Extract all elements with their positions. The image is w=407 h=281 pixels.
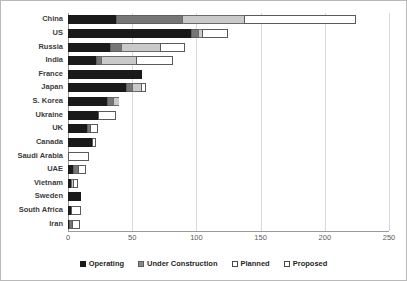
- x-axis-tick-labels: 050100150200250: [68, 233, 389, 245]
- legend-swatch-proposed-icon: [284, 261, 290, 267]
- chart-legend: OperatingUnder ConstructionPlannedPropos…: [1, 259, 406, 268]
- x-axis-line: [68, 231, 389, 232]
- category-label-sweden: Sweden: [35, 190, 63, 201]
- bar-segment-proposed: [72, 220, 80, 229]
- bar-row: UAE: [68, 165, 86, 174]
- legend-label: Planned: [241, 259, 270, 268]
- bar-segment-proposed: [244, 15, 356, 24]
- bar-segment-proposed: [71, 206, 81, 215]
- bar-segment-operating: [68, 97, 107, 106]
- x-tick-150: 150: [254, 233, 267, 242]
- bar-segment-operating: [68, 43, 110, 52]
- category-label-saudi-arabia: Saudi Arabia: [17, 150, 63, 161]
- bar-segment-under-construction: [116, 15, 183, 24]
- x-tick-200: 200: [319, 233, 332, 242]
- bar-row: Vietnam: [68, 179, 78, 188]
- category-label-india: India: [45, 54, 63, 65]
- bar-rows: ChinaUSRussiaIndiaFranceJapanS. KoreaUkr…: [68, 13, 389, 231]
- category-label-russia: Russia: [38, 41, 63, 52]
- bar-segment-proposed: [68, 152, 89, 161]
- bar-segment-planned: [121, 43, 161, 52]
- bar-row: UK: [68, 124, 98, 133]
- bar-row: US: [68, 29, 228, 38]
- legend-swatch-under-construction-icon: [138, 261, 144, 267]
- bar-segment-operating: [68, 83, 126, 92]
- bar-segment-planned: [132, 83, 141, 92]
- bar-segment-operating: [68, 124, 87, 133]
- category-label-japan: Japan: [41, 81, 63, 92]
- bar-segment-proposed: [136, 56, 173, 65]
- bar-segment-proposed: [141, 83, 146, 92]
- legend-swatch-planned-icon: [232, 261, 238, 267]
- bar-segment-operating: [68, 29, 191, 38]
- bar-row: Russia: [68, 43, 185, 52]
- legend-item-under-construction[interactable]: Under Construction: [138, 259, 217, 268]
- bar-segment-proposed: [160, 43, 184, 52]
- category-label-vietnam: Vietnam: [34, 177, 63, 188]
- x-tick-0: 0: [66, 233, 70, 242]
- nuclear-reactor-stacked-bar-chart: ChinaUSRussiaIndiaFranceJapanS. KoreaUkr…: [0, 0, 407, 281]
- bar-segment-planned: [113, 97, 119, 106]
- bar-segment-operating: [68, 70, 142, 79]
- bar-segment-operating: [68, 192, 81, 201]
- bar-row: South Africa: [68, 206, 81, 215]
- bar-segment-proposed: [92, 138, 96, 147]
- bar-row: S. Korea: [68, 97, 119, 106]
- category-label-s-korea: S. Korea: [33, 95, 63, 106]
- category-label-iran: Iran: [49, 218, 63, 229]
- bar-row: Canada: [68, 138, 96, 147]
- category-label-china: China: [42, 13, 63, 24]
- bar-segment-planned: [101, 56, 136, 65]
- bar-row: Iran: [68, 220, 80, 229]
- legend-item-proposed[interactable]: Proposed: [284, 259, 328, 268]
- category-label-uk: UK: [52, 122, 63, 133]
- bar-segment-planned: [182, 15, 244, 24]
- x-tick-250: 250: [383, 233, 396, 242]
- legend-label: Proposed: [293, 259, 328, 268]
- bar-row: China: [68, 15, 356, 24]
- legend-label: Under Construction: [147, 259, 217, 268]
- bar-row: Sweden: [68, 192, 81, 201]
- bar-row: France: [68, 70, 142, 79]
- bar-segment-operating: [68, 111, 98, 120]
- x-tick-50: 50: [128, 233, 136, 242]
- plot-area: ChinaUSRussiaIndiaFranceJapanS. KoreaUkr…: [68, 13, 389, 231]
- legend-label: Operating: [89, 259, 124, 268]
- category-label-ukraine: Ukraine: [35, 109, 63, 120]
- bar-row: India: [68, 56, 173, 65]
- legend-item-planned[interactable]: Planned: [232, 259, 270, 268]
- legend-swatch-operating-icon: [80, 261, 86, 267]
- x-tick-100: 100: [190, 233, 203, 242]
- legend-item-operating[interactable]: Operating: [80, 259, 124, 268]
- bar-segment-operating: [68, 56, 96, 65]
- bar-row: Saudi Arabia: [68, 152, 89, 161]
- bar-segment-proposed: [73, 179, 78, 188]
- bar-row: Japan: [68, 83, 146, 92]
- category-label-uae: UAE: [47, 163, 63, 174]
- bar-segment-proposed: [78, 165, 86, 174]
- bar-segment-proposed: [90, 124, 98, 133]
- bar-segment-operating: [68, 15, 116, 24]
- bar-segment-operating: [68, 138, 92, 147]
- category-label-south-africa: South Africa: [19, 204, 63, 215]
- gridline-250: [389, 13, 390, 231]
- bar-segment-proposed: [98, 111, 116, 120]
- bar-segment-proposed: [202, 29, 229, 38]
- category-label-canada: Canada: [36, 136, 63, 147]
- category-label-us: US: [53, 27, 63, 38]
- bar-segment-under-construction: [110, 43, 120, 52]
- bar-row: Ukraine: [68, 111, 116, 120]
- category-label-france: France: [38, 68, 63, 79]
